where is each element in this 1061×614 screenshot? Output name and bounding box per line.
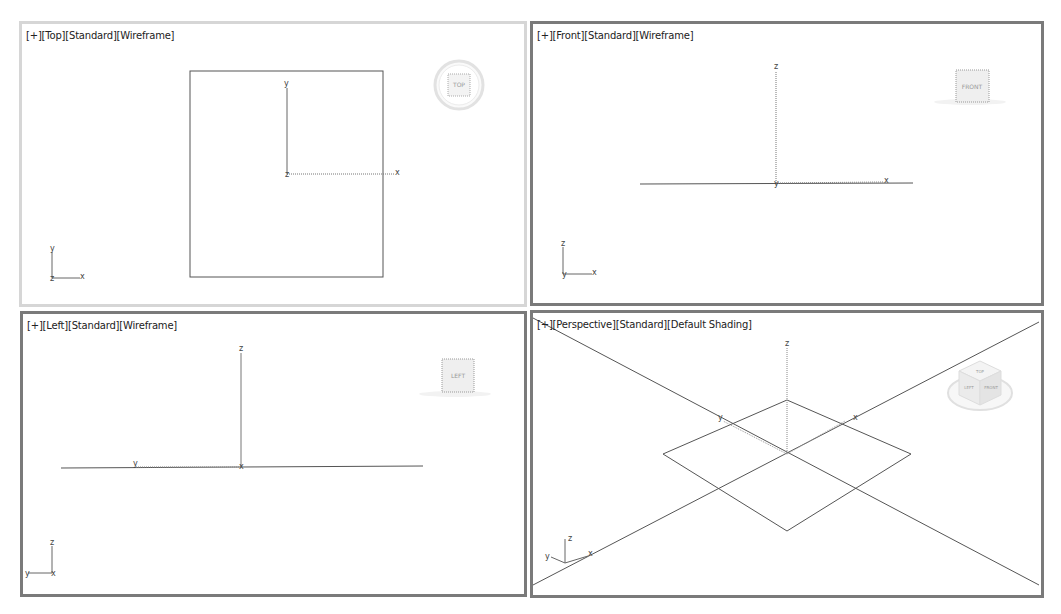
tripod-z-label: z (50, 538, 54, 547)
viewport-render-mode-menu[interactable]: [Standard] (584, 30, 635, 41)
world-axis-tripod: y x z (50, 244, 85, 283)
gizmo-y-label: y (284, 79, 289, 88)
transform-gizmo[interactable]: z y x (133, 344, 244, 471)
tripod-y-label: y (50, 244, 55, 253)
viewport-point-of-view-menu[interactable]: [Front] (553, 30, 585, 41)
gizmo-y-label: y (774, 179, 779, 188)
viewport-canvas[interactable]: y x z TOP y x z (22, 24, 524, 304)
plane-wireframe[interactable] (663, 400, 911, 531)
viewport-menu-plus[interactable]: [+] (537, 30, 553, 41)
viewport-front[interactable]: [+][Front][Standard][Wireframe] z x y FR… (530, 21, 1044, 306)
viewport-shading-menu[interactable]: [Default Shading] (667, 319, 752, 330)
viewport-left[interactable]: [+][Left][Standard][Wireframe] z y x LEF… (20, 311, 527, 597)
viewport-point-of-view-menu[interactable]: [Perspective] (553, 319, 616, 330)
gizmo-y-label: y (718, 413, 723, 422)
viewcube[interactable]: FRONT (934, 70, 1006, 105)
viewcube-face-label: FRONT (962, 83, 983, 90)
viewport-render-mode-menu[interactable]: [Standard] (68, 320, 119, 331)
gizmo-z-label: z (285, 170, 289, 179)
gizmo-z-label: z (774, 62, 778, 71)
viewport-top[interactable]: [+][Top][Standard][Wireframe] y x z TOP … (19, 21, 527, 307)
tripod-x-label: x (51, 569, 56, 578)
tripod-x-label: x (592, 268, 597, 277)
viewport-shading-menu[interactable]: [Wireframe] (117, 30, 175, 41)
gizmo-x-label: x (239, 462, 244, 471)
viewport-point-of-view-menu[interactable]: [Top] (42, 30, 66, 41)
viewport-point-of-view-menu[interactable]: [Left] (43, 320, 68, 331)
tripod-z-label: z (50, 274, 54, 283)
viewport-label: [+][Left][Standard][Wireframe] (27, 320, 177, 331)
diagonal-line-1 (533, 318, 1039, 585)
viewport-shading-menu[interactable]: [Wireframe] (636, 30, 694, 41)
viewport-label: [+][Perspective][Standard][Default Shadi… (537, 319, 752, 330)
viewcube-face-label: TOP (452, 81, 465, 88)
viewcube-front-face: FRONT (984, 385, 998, 390)
transform-gizmo[interactable]: z x y (774, 62, 889, 188)
world-axis-tripod: z x y (545, 534, 593, 563)
tripod-y-label: y (562, 270, 567, 279)
viewport-canvas[interactable]: z x y FRONT z x y (533, 24, 1041, 303)
viewcube-face-label: LEFT (451, 372, 465, 379)
gizmo-z-label: z (785, 339, 789, 348)
viewport-perspective[interactable]: [+][Perspective][Standard][Default Shadi… (530, 310, 1044, 598)
tripod-z-label: z (561, 239, 565, 248)
viewport-menu-plus[interactable]: [+] (27, 320, 43, 331)
viewport-shading-menu[interactable]: [Wireframe] (119, 320, 177, 331)
tripod-z-label: z (568, 534, 572, 543)
tripod-x-label: x (588, 549, 593, 558)
viewport-label: [+][Top][Standard][Wireframe] (26, 30, 174, 41)
viewport-render-mode-menu[interactable]: [Standard] (65, 30, 116, 41)
world-axis-tripod: z x y (561, 239, 597, 279)
tripod-x-label: x (80, 272, 85, 281)
viewport-label: [+][Front][Standard][Wireframe] (537, 30, 693, 41)
gizmo-x-label: x (853, 413, 858, 422)
tripod-y-label: y (545, 552, 550, 561)
viewport-menu-plus[interactable]: [+] (26, 30, 42, 41)
viewport-canvas[interactable]: z y x LEFT FRONT TOP z x y (533, 313, 1041, 595)
diagonal-line-2 (533, 322, 1039, 585)
viewport-canvas[interactable]: z y x LEFT z y x (23, 314, 524, 594)
tripod-y-label: y (25, 569, 30, 578)
viewport-menu-plus[interactable]: [+] (537, 319, 553, 330)
world-axis-tripod: z y x (25, 538, 56, 578)
gizmo-y-label: y (133, 459, 138, 468)
viewcube[interactable]: LEFT (419, 359, 491, 397)
viewcube[interactable]: LEFT FRONT TOP (948, 361, 1012, 410)
viewport-render-mode-menu[interactable]: [Standard] (616, 319, 667, 330)
viewcube[interactable]: TOP (435, 61, 483, 109)
viewcube-left-face: LEFT (964, 385, 974, 390)
gizmo-z-label: z (239, 344, 243, 353)
viewcube-top-face: TOP (975, 369, 985, 374)
gizmo-x-label: x (884, 176, 889, 185)
transform-gizmo[interactable]: z y x (718, 339, 858, 454)
gizmo-x-label: x (395, 168, 400, 177)
